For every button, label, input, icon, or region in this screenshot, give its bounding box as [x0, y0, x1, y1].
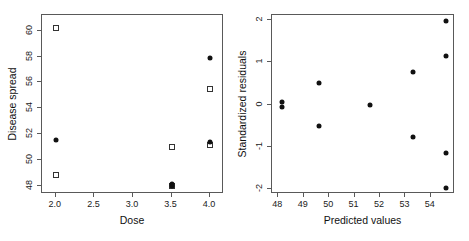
data-point: [169, 183, 174, 188]
y-axis-tick: [37, 133, 41, 134]
x-axis-tick-label: 4.0: [203, 200, 216, 209]
y-axis-tick: [267, 146, 271, 147]
data-point: [53, 137, 58, 142]
x-axis-tick: [93, 193, 94, 197]
data-point: [444, 151, 449, 156]
x-axis-tick-label: 51: [349, 200, 359, 209]
y-axis-tick-label: 50: [25, 154, 34, 164]
data-point: [367, 102, 372, 107]
x-axis-tick-label: 3.0: [126, 200, 139, 209]
y-axis-title-left: Disease spread: [7, 67, 18, 140]
x-axis-tick-label: 2.5: [87, 200, 100, 209]
y-axis-tick-label: 60: [25, 25, 34, 35]
x-axis-tick: [277, 193, 278, 197]
x-axis-tick-label: 50: [323, 200, 333, 209]
y-axis-tick-label: 58: [25, 50, 34, 60]
chart-panel-right: 48495051525354-2-1012 Standardized resid…: [235, 0, 469, 241]
data-point: [208, 55, 213, 60]
y-axis-tick-label: -1: [255, 142, 264, 150]
data-point: [207, 86, 213, 92]
x-axis-tick: [328, 193, 329, 197]
chart-panel-left: 2.02.53.03.54.048505254565860 Disease sp…: [0, 0, 235, 241]
x-axis-tick-label: 2.0: [49, 200, 62, 209]
x-axis-tick-label: 54: [425, 200, 435, 209]
plot-area-right: [272, 15, 453, 192]
y-axis-tick: [37, 185, 41, 186]
data-point: [444, 53, 449, 58]
x-axis-tick: [132, 193, 133, 197]
plot-frame-left: [41, 14, 223, 193]
x-axis-tick-label: 3.5: [164, 200, 177, 209]
y-axis-tick: [37, 107, 41, 108]
data-point: [317, 123, 322, 128]
x-axis-tick: [171, 193, 172, 197]
plot-frame-right: [271, 14, 454, 193]
data-point: [444, 185, 449, 190]
y-axis-tick-label: 0: [255, 101, 264, 106]
data-point: [411, 69, 416, 74]
x-axis-tick: [209, 193, 210, 197]
y-axis-tick: [267, 104, 271, 105]
data-point: [444, 19, 449, 24]
y-axis-tick-label: 48: [25, 180, 34, 190]
data-point: [208, 140, 213, 145]
x-axis-tick: [379, 193, 380, 197]
x-axis-tick-label: 49: [298, 200, 308, 209]
y-axis-tick: [37, 30, 41, 31]
x-axis-tick: [55, 193, 56, 197]
y-axis-tick-label: 2: [255, 17, 264, 22]
y-axis-tick: [37, 56, 41, 57]
y-axis-tick-label: 54: [25, 102, 34, 112]
figure-root: 2.02.53.03.54.048505254565860 Disease sp…: [0, 0, 469, 241]
y-axis-tick: [37, 81, 41, 82]
data-point: [53, 172, 59, 178]
x-axis-tick-label: 52: [374, 200, 384, 209]
y-axis-tick-label: 56: [25, 76, 34, 86]
data-point: [169, 144, 175, 150]
x-axis-tick: [354, 193, 355, 197]
x-axis-tick-label: 48: [272, 200, 282, 209]
data-point: [53, 25, 59, 31]
x-axis-tick-label: 53: [399, 200, 409, 209]
y-axis-tick: [267, 61, 271, 62]
y-axis-tick-label: -2: [255, 184, 264, 192]
y-axis-tick: [267, 188, 271, 189]
x-axis-tick: [404, 193, 405, 197]
data-point: [280, 99, 285, 104]
x-axis-tick: [430, 193, 431, 197]
y-axis-tick: [267, 19, 271, 20]
plot-area-left: [42, 15, 222, 192]
data-point: [317, 81, 322, 86]
x-axis-tick: [303, 193, 304, 197]
y-axis-tick: [37, 159, 41, 160]
y-axis-title-right: Standardized residuals: [237, 50, 248, 157]
x-axis-title-left: Dose: [120, 215, 145, 226]
y-axis-tick-label: 52: [25, 128, 34, 138]
data-point: [280, 105, 285, 110]
data-point: [411, 135, 416, 140]
y-axis-tick-label: 1: [255, 59, 264, 64]
x-axis-title-right: Predicted values: [324, 215, 402, 226]
